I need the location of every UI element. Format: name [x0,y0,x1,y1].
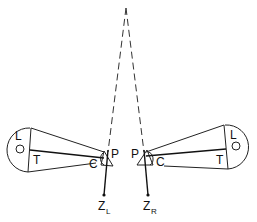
right-axis-endpoint [146,193,149,196]
right-eye-arc [225,125,249,169]
right-eye-axis [144,150,148,195]
left-eye-top-line [31,128,104,152]
left-axis-subscript: L [106,207,111,216]
left-eye-axis [104,150,108,195]
right-eye-label-l: L [230,128,237,142]
left-eye: L T C P Z L [7,128,119,216]
right-eye: L T C P Z R [131,125,249,216]
binocular-diagram: L T C P Z L L T C P Z R [0,0,257,222]
right-eye-label-c: C [156,155,165,169]
left-axis-label: Z [98,199,105,213]
left-eye-pupil-icon [16,145,24,153]
left-sight-line [108,8,126,152]
left-axis-endpoint [102,193,105,196]
right-axis-subscript: R [151,207,157,216]
left-eye-label-t: T [33,153,41,167]
right-eye-vertical [224,125,228,169]
right-sight-line [126,8,144,152]
right-eye-top-line [146,125,224,152]
right-eye-label-t: T [216,153,224,167]
right-eye-label-p: P [131,147,139,161]
sight-lines [108,8,144,152]
left-eye-label-l: L [15,129,22,143]
right-eye-pupil-icon [232,142,240,150]
right-axis-label: Z [143,199,150,213]
left-eye-label-p: P [111,147,119,161]
left-eye-label-c: C [89,157,98,171]
